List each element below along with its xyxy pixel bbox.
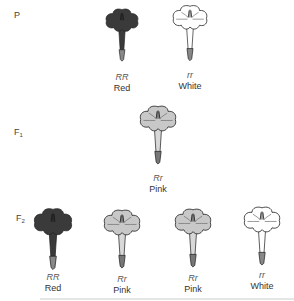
- flower-white-icon: [171, 2, 209, 64]
- genotype-label: rr: [232, 270, 292, 280]
- flower-f2-white: rr White: [232, 204, 292, 296]
- phenotype-label: Pink: [128, 184, 188, 194]
- generation-label-text: P: [14, 10, 20, 20]
- genotype-label: Rr: [163, 273, 223, 283]
- phenotype-label: Pink: [163, 284, 223, 294]
- flower-f2-red: RR Red: [23, 206, 83, 300]
- phenotype-label: White: [160, 81, 220, 91]
- phenotype-label: Red: [92, 83, 152, 93]
- flower-pink-icon: [102, 207, 142, 271]
- flower-pink-icon: [173, 206, 213, 270]
- generation-label-p: P: [14, 10, 20, 20]
- flower-p-white: rr White: [160, 2, 220, 92]
- genotype-label: RR: [92, 72, 152, 82]
- phenotype-label: Red: [23, 283, 83, 293]
- genotype-label: Rr: [92, 274, 152, 284]
- generation-label-subscript: 1: [20, 132, 23, 138]
- flower-red-icon: [104, 4, 140, 66]
- genotype-label: Rr: [128, 173, 188, 183]
- flower-p-red: RR Red: [92, 4, 152, 94]
- phenotype-label: Pink: [92, 285, 152, 295]
- flower-f1-pink: Rr Pink: [128, 103, 188, 195]
- bottom-divider: [40, 298, 294, 300]
- flower-white-icon: [242, 204, 282, 268]
- flower-f2-pink-1: Rr Pink: [92, 207, 152, 299]
- genotype-label: RR: [23, 272, 83, 282]
- flower-pink-icon: [138, 103, 178, 167]
- generation-label-f1: F1: [14, 127, 23, 138]
- flower-f2-pink-2: Rr Pink: [163, 206, 223, 298]
- genotype-label: rr: [160, 70, 220, 80]
- flower-red-icon: [32, 206, 74, 272]
- phenotype-label: White: [232, 281, 292, 291]
